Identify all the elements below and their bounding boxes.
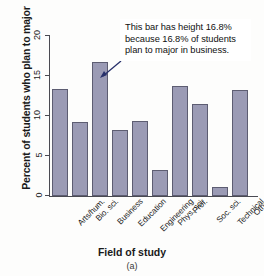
y-tick-label: 10 [32,110,41,120]
y-tick-label: 15 [32,70,41,80]
y-tick-label: 0 [35,193,44,198]
y-tick: 5 [45,155,50,156]
y-tick: 20 [45,35,50,36]
y-tick: 0 [45,195,50,196]
figure-caption: (a) [0,261,264,271]
figure-panel: Percent of students who plan to major 05… [0,0,264,276]
x-axis-title: Field of study [0,246,264,258]
bar-prof [172,86,188,196]
y-tick: 10 [45,115,50,116]
bar-other [232,90,248,196]
bar-phys-sci [152,170,168,196]
y-tick: 15 [45,75,50,76]
y-axis-title: Percent of students who plan to major [20,0,32,198]
callout-text: This bar has height 16.8% because 16.8% … [125,22,246,57]
y-tick-label: 5 [35,153,44,158]
y-tick-label: 20 [32,30,41,40]
bar-arts-hum [52,89,68,196]
bar-soc-sci [192,104,208,196]
bar-engineering [132,121,148,196]
bar-education [112,130,128,196]
callout-box: This bar has height 16.8% because 16.8% … [120,19,251,61]
bar-technical [212,187,228,196]
bar-business [92,62,108,196]
x-tick-label: Prof. [191,197,209,215]
callout-arrow-icon [98,60,122,78]
y-axis-line [49,36,50,197]
x-tick-label-group: Arts/hum.Bio. sci.BusinessEducationEngin… [50,197,250,249]
bar-bio-sci [72,122,88,196]
